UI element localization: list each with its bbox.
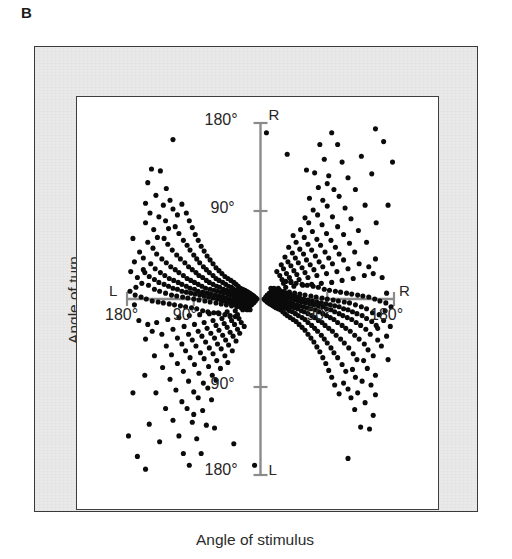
x-axis-title: Angle of stimulus [75, 531, 435, 549]
x-tick-label-90-left: 90° [173, 306, 197, 324]
x-tick-label-180-right: 180° [370, 306, 403, 324]
y-tick-label-90-bottom: 90° [211, 375, 235, 393]
scatter-plot-svg [77, 97, 438, 509]
y-tick-label-180-bottom: 180° [205, 461, 238, 479]
panel-letter: B [21, 4, 32, 21]
figure-frame: Angle of turn Angle of stimulus L R R L … [34, 46, 478, 512]
y-tick-label-90-top: 90° [211, 199, 235, 217]
x-axis-left-end-label: L [109, 282, 117, 299]
scatter-plot-area: L R R L 180° 90° 90° 180° 180° 90° 90° 1… [76, 96, 439, 510]
y-axis-top-end-label: R [269, 106, 280, 123]
x-axis-right-end-label: R [399, 282, 410, 299]
x-tick-label-90-right: 90° [306, 306, 330, 324]
y-axis-bottom-end-label: L [269, 461, 277, 478]
x-tick-label-180-left: 180° [105, 306, 138, 324]
y-tick-label-180-top: 180° [205, 111, 238, 129]
